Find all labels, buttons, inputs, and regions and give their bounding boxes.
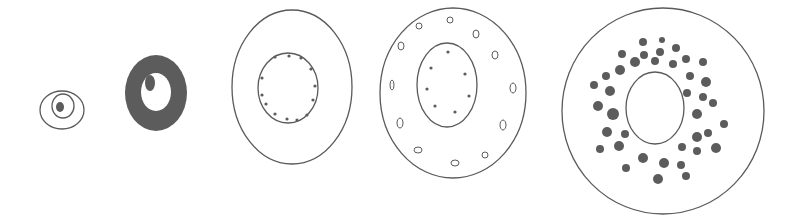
granule [678,143,686,151]
membrane-dot [305,113,308,116]
vacuole [390,80,394,90]
granule [693,147,701,155]
granule [602,127,612,137]
granule [720,120,728,128]
granule [607,108,619,120]
granule [651,57,659,65]
granule [659,37,665,43]
membrane-dot [299,56,302,59]
granule [640,51,648,59]
granule [699,58,707,66]
granule [622,164,630,172]
granule [653,174,663,184]
vacuole [447,17,453,23]
granule [618,50,626,58]
granule [605,86,615,96]
vacuole [414,147,422,153]
inner-membrane [626,72,684,144]
vacuole [473,30,479,38]
diagram-canvas [0,0,796,221]
granule [602,72,610,80]
granule [692,132,702,142]
stage-4-figure [380,8,526,178]
inner-dot [446,50,449,53]
stage-2-figure [125,55,187,131]
membrane-dot [260,93,263,96]
vacuole [397,118,403,128]
membrane-dot [285,117,288,120]
granule [701,77,711,87]
inner-membrane [417,43,477,127]
membrane-dot [309,67,312,70]
vacuole [492,51,498,59]
granule [596,145,604,153]
vacuole [398,42,404,50]
inner-dot [429,66,432,69]
membrane-dot [273,112,276,115]
granule [590,81,598,89]
vacuole [451,160,459,166]
granule [614,141,624,151]
granule [621,130,629,138]
inner-dot [467,94,470,97]
membrane-dot [264,102,267,105]
membrane-dot [313,84,316,87]
vacuole [510,83,516,93]
cell-stages-diagram [0,0,796,221]
granule [672,44,680,52]
outer-membrane [232,10,352,164]
inner-clear-zone [141,73,171,111]
membrane-dot [287,54,290,57]
vacuole [416,23,422,29]
granule [638,153,648,163]
inner-dot [463,72,466,75]
granule [709,99,717,107]
granule [699,93,707,101]
granule [692,109,702,119]
nucleus [56,102,64,112]
granule [639,38,647,46]
granule [682,55,690,63]
granule [615,65,625,75]
membrane-dot [260,76,263,79]
inner-dot [433,104,436,107]
vacuole [500,120,506,130]
nucleus [145,75,155,91]
membrane-dot [311,98,314,101]
stage-3-figure [232,10,352,164]
stage-5-figure [562,8,764,214]
vacuole [482,152,488,158]
granule [677,161,685,169]
granule [704,129,712,137]
outer-membrane [380,8,526,178]
granule [669,60,677,68]
granule [656,48,664,56]
granule [659,158,669,168]
inner-membrane [258,53,318,123]
granule [711,143,721,153]
inner-dot [425,87,428,90]
granule [683,89,691,97]
granule [630,57,640,67]
granule [686,72,694,80]
inner-dot [453,110,456,113]
membrane-dot [273,55,276,58]
granule [682,172,690,180]
granule [593,101,603,111]
stage-1-figure [40,91,84,129]
membrane-dot [295,118,298,121]
